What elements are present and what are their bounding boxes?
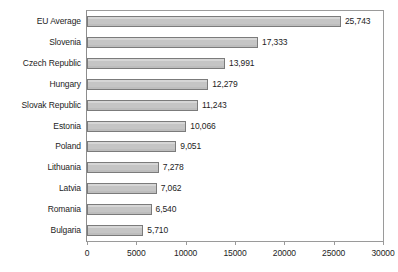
category-label: Estonia xyxy=(53,122,81,131)
bar-value-label: 6,540 xyxy=(156,205,177,214)
category-label: Hungary xyxy=(50,80,81,89)
x-axis-tick-label: 15000 xyxy=(223,248,246,258)
bar-value-label: 7,278 xyxy=(163,163,184,172)
x-axis-tick xyxy=(383,242,384,245)
bar xyxy=(87,58,225,69)
x-axis-tick-labels: 050001000015000200002500030000 xyxy=(0,248,398,262)
bar xyxy=(87,183,157,194)
x-axis-tick xyxy=(334,242,335,245)
category-label: Latvia xyxy=(59,184,81,193)
bar xyxy=(87,79,208,90)
bar-chart: EU AverageSloveniaCzech RepublicHungaryS… xyxy=(0,0,398,272)
x-axis-ticks xyxy=(87,242,383,246)
bar xyxy=(87,225,143,236)
category-label: EU Average xyxy=(37,17,81,26)
category-label: Slovak Republic xyxy=(22,101,81,110)
bar-value-label: 7,062 xyxy=(161,184,182,193)
category-axis-labels: EU AverageSloveniaCzech RepublicHungaryS… xyxy=(0,10,83,242)
bar xyxy=(87,204,152,215)
x-axis-tick xyxy=(284,242,285,245)
x-axis-tick-label: 30000 xyxy=(371,248,394,258)
x-axis-tick-label: 10000 xyxy=(174,248,197,258)
x-axis-tick xyxy=(186,242,187,245)
category-label: Romania xyxy=(48,205,81,214)
bar xyxy=(87,100,198,111)
bar xyxy=(87,37,258,48)
bar xyxy=(87,141,176,152)
x-axis-tick xyxy=(136,242,137,245)
category-label: Czech Republic xyxy=(23,59,81,68)
category-label: Bulgaria xyxy=(51,226,81,235)
x-axis-tick xyxy=(87,242,88,245)
bar-value-label: 5,710 xyxy=(147,226,168,235)
bar-value-label: 11,243 xyxy=(202,101,227,110)
x-axis-tick-label: 20000 xyxy=(273,248,296,258)
bar xyxy=(87,162,159,173)
bar-value-label: 13,991 xyxy=(229,59,254,68)
category-label: Slovenia xyxy=(49,38,81,47)
bar-value-label: 25,743 xyxy=(345,17,370,26)
x-axis-tick-label: 25000 xyxy=(322,248,345,258)
bar-value-label: 12,279 xyxy=(212,80,237,89)
x-axis-tick xyxy=(235,242,236,245)
bar xyxy=(87,121,186,132)
bars-layer: 25,74317,33313,99112,27911,24310,0669,05… xyxy=(87,11,383,241)
x-axis-tick-label: 0 xyxy=(85,248,90,258)
category-label: Poland xyxy=(55,142,81,151)
bar-value-label: 10,066 xyxy=(190,122,215,131)
bar-value-label: 17,333 xyxy=(262,38,287,47)
bar-value-label: 9,051 xyxy=(180,142,201,151)
bar xyxy=(87,16,341,27)
x-axis-tick-label: 5000 xyxy=(127,248,146,258)
category-label: Lithuania xyxy=(47,163,81,172)
